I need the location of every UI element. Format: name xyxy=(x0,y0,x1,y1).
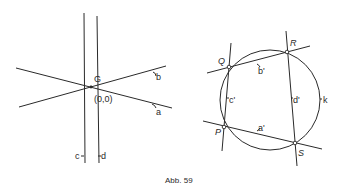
line-c xyxy=(84,13,85,163)
line-b-prime-label: b' xyxy=(258,66,265,76)
point-s-marker xyxy=(293,141,297,145)
point-r-marker xyxy=(285,50,289,54)
circle-k-label: k xyxy=(323,95,328,105)
point-r-label: R xyxy=(290,38,297,48)
point-s-label: S xyxy=(298,148,304,158)
line-c-prime-label: c' xyxy=(229,95,236,105)
line-c-label: c xyxy=(75,151,80,161)
figure-caption: Abb. 59 xyxy=(165,176,193,185)
line-b-label: b xyxy=(156,72,161,82)
line-a-prime-label: a' xyxy=(258,123,265,133)
point-p-label: P xyxy=(215,127,221,137)
point-q-marker xyxy=(227,65,231,69)
point-g-marker xyxy=(90,86,93,89)
right-figure: Q R P S b' c' d' a' k xyxy=(203,31,328,166)
line-d-label: d xyxy=(101,151,106,161)
point-q-label: Q xyxy=(218,56,225,66)
line-a-label: a xyxy=(156,107,161,117)
left-figure: G (0,0) b a c d xyxy=(16,13,172,163)
diagram-canvas: G (0,0) b a c d Q R P S b' c' d' a' xyxy=(0,0,344,188)
point-p-marker xyxy=(222,125,226,129)
point-g-label: G xyxy=(94,74,101,84)
line-d-prime-label: d' xyxy=(293,95,300,105)
origin-label: (0,0) xyxy=(94,94,113,104)
